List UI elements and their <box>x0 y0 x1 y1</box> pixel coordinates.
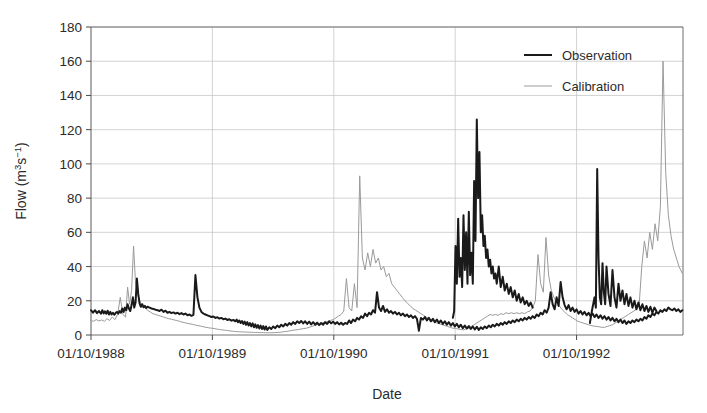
x-tick-label: 01/10/1990 <box>300 346 368 361</box>
chart-canvas: 020406080100120140160180 01/10/198801/10… <box>0 0 707 413</box>
x-tick-label: 01/10/1988 <box>57 346 125 361</box>
legend-label-calibration: Calibration <box>562 79 624 94</box>
y-axis-title-sup-minus1: −1 <box>12 147 23 158</box>
x-tick-label: 01/10/1989 <box>179 346 247 361</box>
y-tick-label: 120 <box>59 123 82 138</box>
y-tick-label: 60 <box>67 225 82 240</box>
x-axis-title: Date <box>372 386 402 402</box>
y-tick-label: 100 <box>59 157 82 172</box>
y-tick-label: 180 <box>59 20 82 35</box>
y-tick-label: 80 <box>67 191 82 206</box>
y-tick-label: 140 <box>59 88 82 103</box>
y-axis-title-prefix: Flow (m <box>13 170 29 220</box>
x-tick-label: 01/10/1991 <box>421 346 489 361</box>
y-tick-label: 20 <box>67 294 82 309</box>
flow-hydrograph-figure: 020406080100120140160180 01/10/198801/10… <box>0 0 707 413</box>
y-axis-title-suffix: ) <box>13 142 29 147</box>
x-tick-label: 01/10/1992 <box>543 346 611 361</box>
y-tick-label: 160 <box>59 54 82 69</box>
y-tick-label: 40 <box>67 260 82 275</box>
y-axis-title-mid: s <box>13 158 29 165</box>
y-tick-label: 0 <box>74 328 82 343</box>
legend-label-observation: Observation <box>562 48 632 63</box>
